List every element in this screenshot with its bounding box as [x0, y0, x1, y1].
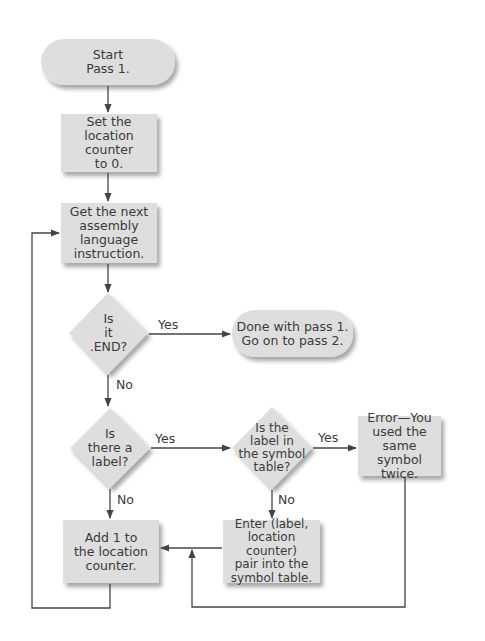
is-end-text: Is it .END? [69, 293, 148, 373]
is-label-no-label: No [117, 492, 134, 507]
enter-pair-text: Enter (label, location counter) pair int… [221, 520, 322, 583]
is-label-yes-label: Yes [155, 431, 175, 446]
get-next-text: Get the next assembly language instructi… [61, 203, 157, 263]
in-table-no-label: No [278, 492, 295, 507]
add-one-text: Add 1 to the location counter. [63, 520, 159, 583]
is-label-text: Is there a label? [70, 408, 150, 488]
done-text: Done with pass 1. Go on to pass 2. [232, 310, 353, 357]
is-end-no-label: No [116, 377, 133, 392]
in-table-yes-label: Yes [318, 430, 338, 445]
is-end-yes-label: Yes [158, 317, 178, 332]
start-text: Start Pass 1. [41, 39, 175, 85]
set-counter-text: Set the location counter to 0. [61, 114, 157, 172]
in-table-text: Is the label in the symbol table? [232, 407, 312, 489]
error-text: Error—You used the same symbol twice. [358, 416, 441, 476]
